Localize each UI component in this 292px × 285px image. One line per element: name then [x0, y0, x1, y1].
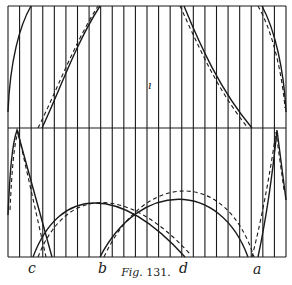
dashed-curve	[104, 191, 254, 257]
figure-131-diagram	[0, 0, 292, 285]
solid-curve	[42, 6, 100, 128]
caption-number: 131.	[146, 266, 171, 279]
dashed-curve	[10, 132, 46, 257]
solid-curve	[8, 130, 52, 257]
solid-curve	[184, 6, 252, 128]
dashed-curve	[258, 6, 285, 108]
stray-mark: ı	[148, 80, 152, 91]
figure-caption: Fig. 131.	[0, 266, 292, 279]
upper-dashed-curves	[38, 6, 285, 128]
ordinate-grid	[8, 6, 286, 257]
caption-prefix: Fig.	[121, 266, 143, 279]
solid-curve	[33, 203, 185, 257]
solid-curve	[258, 130, 286, 257]
dashed-curve	[38, 203, 190, 257]
